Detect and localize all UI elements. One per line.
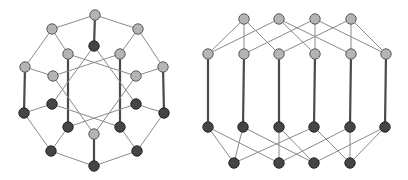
edge-b1-n1 bbox=[208, 127, 234, 163]
node-n6 bbox=[380, 122, 390, 132]
node-o_ur bbox=[133, 24, 143, 34]
edge-t2-m4 bbox=[279, 19, 315, 54]
node-o_bot bbox=[89, 161, 99, 171]
graph-diagram-canvas bbox=[0, 0, 408, 180]
node-d1 bbox=[47, 99, 57, 109]
node-d2 bbox=[131, 99, 141, 109]
edge-t1-m3 bbox=[244, 19, 279, 54]
node-n3 bbox=[274, 122, 284, 132]
edge-o_lld-o_ld bbox=[24, 113, 51, 151]
edge-o_ld-o_l bbox=[24, 67, 25, 113]
edge-m2-n2 bbox=[243, 54, 244, 127]
node-m1 bbox=[203, 49, 213, 59]
node-m5 bbox=[346, 49, 356, 59]
node-b1 bbox=[229, 158, 239, 168]
left-graph-edges bbox=[24, 15, 164, 166]
node-d3 bbox=[63, 122, 73, 132]
edge-o_top-o_ur bbox=[95, 15, 138, 29]
node-m2 bbox=[239, 49, 249, 59]
edge-m5-n5 bbox=[350, 54, 351, 127]
node-t2 bbox=[274, 14, 284, 24]
edge-t4-m6 bbox=[351, 19, 386, 54]
node-b4 bbox=[345, 158, 355, 168]
edge-l2-l3 bbox=[53, 54, 120, 76]
node-b2 bbox=[274, 158, 284, 168]
node-o_lld bbox=[46, 146, 56, 156]
edge-o_ur-o_r bbox=[138, 29, 163, 67]
node-n2 bbox=[238, 122, 248, 132]
node-o_ld bbox=[19, 108, 29, 118]
node-d0 bbox=[89, 41, 99, 51]
node-m6 bbox=[381, 49, 391, 59]
node-n4 bbox=[309, 122, 319, 132]
edge-m6-n6 bbox=[385, 54, 386, 127]
node-l4 bbox=[131, 71, 141, 81]
node-o_rd bbox=[159, 108, 169, 118]
node-t1 bbox=[239, 14, 249, 24]
node-n5 bbox=[345, 122, 355, 132]
node-t4 bbox=[346, 14, 356, 24]
right-graph-edges bbox=[208, 19, 386, 163]
node-m4 bbox=[310, 49, 320, 59]
node-l3 bbox=[48, 71, 58, 81]
node-n1 bbox=[203, 122, 213, 132]
edge-o_l-o_ul bbox=[25, 29, 52, 67]
node-b3 bbox=[309, 158, 319, 168]
node-l2 bbox=[115, 49, 125, 59]
node-m3 bbox=[274, 49, 284, 59]
node-o_ul bbox=[47, 24, 57, 34]
edge-b4-n4 bbox=[314, 127, 350, 163]
edge-o_rd-o_lrd bbox=[137, 113, 164, 151]
edge-b4-n6 bbox=[350, 127, 385, 163]
edge-o_lrd-o_bot bbox=[94, 151, 137, 166]
edge-b3-n3 bbox=[279, 127, 314, 163]
edge-o_ul-o_top bbox=[52, 15, 95, 29]
edge-o_r-o_rd bbox=[163, 67, 164, 113]
edge-m4-n4 bbox=[314, 54, 315, 127]
node-o_lrd bbox=[132, 146, 142, 156]
node-l5 bbox=[89, 129, 99, 139]
node-l1 bbox=[63, 49, 73, 59]
left-graph bbox=[19, 10, 169, 171]
node-o_r bbox=[158, 62, 168, 72]
node-o_top bbox=[90, 10, 100, 20]
edge-t1-m1 bbox=[208, 19, 244, 54]
node-o_l bbox=[20, 62, 30, 72]
right-graph bbox=[203, 14, 391, 168]
edge-b1-n4 bbox=[234, 127, 314, 163]
edge-o_bot-o_lld bbox=[51, 151, 94, 166]
node-d4 bbox=[115, 122, 125, 132]
node-t3 bbox=[310, 14, 320, 24]
edge-d1-d4 bbox=[52, 104, 120, 127]
